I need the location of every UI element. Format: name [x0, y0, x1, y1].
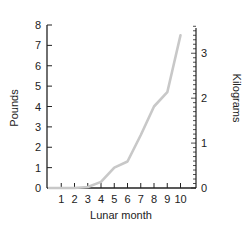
y-tick-label: 7 — [35, 39, 41, 51]
y-tick-label: 2 — [35, 141, 41, 153]
x-axis-label: Lunar month — [90, 209, 152, 221]
y-tick-label: 5 — [35, 80, 41, 92]
y2-tick-label: 0 — [201, 182, 207, 194]
y-tick-label: 0 — [35, 182, 41, 194]
y2-tick-label: 2 — [201, 92, 207, 104]
y-tick-label: 1 — [35, 162, 41, 174]
y-axis-label: Pounds — [8, 89, 20, 127]
x-tick-label: 7 — [138, 193, 144, 205]
x-tick-label: 10 — [174, 193, 186, 205]
x-tick-label: 8 — [151, 193, 157, 205]
x-tick-label: 4 — [98, 193, 104, 205]
y-tick-label: 8 — [35, 19, 41, 31]
x-tick-label: 6 — [124, 193, 130, 205]
fetal-weight-chart: 012345678123456789100123 Pounds Kilogram… — [0, 0, 249, 228]
x-tick-label: 1 — [58, 193, 64, 205]
x-tick-label: 9 — [164, 193, 170, 205]
y-tick-label: 4 — [35, 101, 41, 113]
y-tick-label: 3 — [35, 121, 41, 133]
weight-curve — [49, 35, 181, 188]
y2-tick-label: 3 — [201, 47, 207, 59]
y2-axis-label: Kilograms — [231, 74, 243, 123]
y2-tick-label: 1 — [201, 137, 207, 149]
y-tick-label: 6 — [35, 60, 41, 72]
x-tick-label: 5 — [111, 193, 117, 205]
axes: 012345678123456789100123 — [35, 19, 207, 205]
x-tick-label: 2 — [71, 193, 77, 205]
x-tick-label: 3 — [85, 193, 91, 205]
